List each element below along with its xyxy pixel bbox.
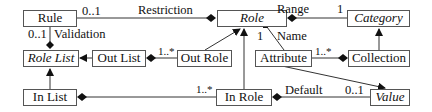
inlist-inrole-mult: 1..* xyxy=(196,83,213,96)
class-rule: Rule xyxy=(23,10,77,27)
class-collection: Collection xyxy=(348,50,410,67)
default-label: Default xyxy=(285,84,322,97)
range-mult: 1 xyxy=(337,3,343,16)
class-category: Category xyxy=(347,10,410,27)
class-collection-label: Collection xyxy=(352,50,406,65)
restriction-mult: 0..1 xyxy=(82,5,101,18)
outlist-outrole-mult: 1..* xyxy=(158,45,175,58)
class-out-role: Out Role xyxy=(177,50,232,67)
class-value-label: Value xyxy=(376,89,405,104)
class-rule-label: Rule xyxy=(38,10,63,25)
class-out-list-label: Out List xyxy=(98,50,141,65)
class-in-list-label: In List xyxy=(33,89,67,104)
default-mult: 0..1 xyxy=(345,84,364,97)
range-label: Range xyxy=(277,3,309,16)
class-in-role-label: In Role xyxy=(225,89,264,104)
class-out-role-label: Out Role xyxy=(181,50,228,65)
validation-label: Validation xyxy=(54,28,105,41)
class-attribute: Attribute xyxy=(255,50,312,67)
name-mult: 1 xyxy=(257,30,263,43)
class-category-label: Category xyxy=(354,10,402,25)
class-out-list: Out List xyxy=(92,50,146,67)
class-attribute-label: Attribute xyxy=(260,50,307,65)
name-label: Name xyxy=(277,30,307,43)
attribute-collection-mult: 1..* xyxy=(315,45,332,58)
class-value: Value xyxy=(370,89,410,106)
class-role-label: Role xyxy=(240,10,264,25)
class-in-list: In List xyxy=(23,89,77,106)
class-in-role: In Role xyxy=(216,89,272,106)
restriction-label: Restriction xyxy=(138,4,193,17)
validation-mult: 0..1 xyxy=(28,28,47,41)
class-role-list: Role List xyxy=(23,50,79,67)
class-role-list-label: Role List xyxy=(28,50,75,65)
